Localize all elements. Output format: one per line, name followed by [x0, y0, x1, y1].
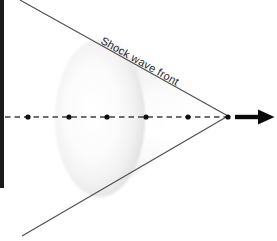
source-dot: [25, 114, 30, 119]
diagram-canvas: Shock wave front: [0, 0, 277, 241]
source-dot: [104, 114, 109, 119]
source-dot: [66, 114, 71, 119]
source-dot: [185, 114, 190, 119]
source-dot: [225, 114, 230, 119]
velocity-arrow-head: [258, 110, 275, 125]
velocity-arrow: [235, 110, 275, 125]
source-dot: [143, 114, 148, 119]
page-edge-bar: [0, 0, 4, 188]
shock-wave-diagram: Shock wave front: [0, 0, 277, 241]
